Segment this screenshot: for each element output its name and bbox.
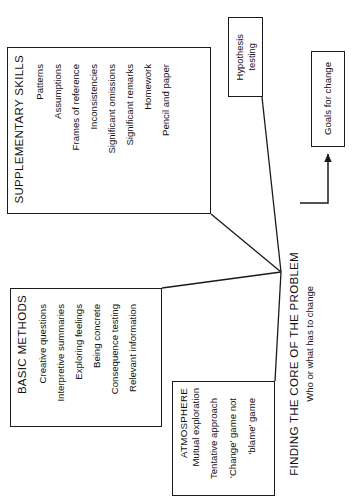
supplementary-skills-item: Significant omissions xyxy=(107,64,117,154)
box-basic-methods: BASIC METHODS Creative questions Interpr… xyxy=(10,288,162,427)
supplementary-skills-item: Pencil and paper xyxy=(161,64,171,136)
atmosphere-item: 'blame' game xyxy=(247,398,257,454)
box-supplementary-skills: SUPPLEMENTARY SKILLS Patterns Assumption… xyxy=(7,47,211,214)
diagram-canvas: SUPPLEMENTARY SKILLS Patterns Assumption… xyxy=(0,0,361,498)
atmosphere-heading: ATMOSPHERE xyxy=(179,388,189,458)
diagram-subtitle: Who or what has to change xyxy=(305,286,315,402)
basic-methods-item: Exploring feelings xyxy=(74,304,84,380)
connector-atmosphere-to-core xyxy=(275,272,281,381)
goals-for-change-label: Goals for change xyxy=(323,62,333,135)
supplementary-skills-item: Inconsistencies xyxy=(89,64,99,130)
supplementary-skills-item: Frames of reference xyxy=(71,64,81,150)
supplementary-skills-item: Assumptions xyxy=(53,64,63,119)
basic-methods-item: Interpretive summaries xyxy=(56,304,66,402)
box-hypothesis-testing: Hypothesis testing xyxy=(228,17,263,97)
atmosphere-item: 'Change' game not xyxy=(228,398,238,478)
supplementary-skills-item: Patterns xyxy=(35,64,45,100)
atmosphere-item: Tentative approach xyxy=(209,398,219,479)
atmosphere-content: ATMOSPHERE Mutual exploration Tentative … xyxy=(173,382,274,495)
basic-methods-content: BASIC METHODS Creative questions Interpr… xyxy=(11,289,161,426)
basic-methods-item: Relevant information xyxy=(128,304,138,392)
basic-methods-item: Creative questions xyxy=(38,304,48,383)
connector-basic-to-core xyxy=(162,272,281,288)
basic-methods-item: Consequence testing xyxy=(110,304,120,394)
basic-methods-heading: BASIC METHODS xyxy=(17,295,29,394)
diagram-title: FINDING THE CORE OF THE PROBLEM xyxy=(288,252,300,476)
basic-methods-item: Being concrete xyxy=(92,304,102,368)
supplementary-skills-heading: SUPPLEMENTARY SKILLS xyxy=(14,55,26,204)
supplementary-skills-item: Homework xyxy=(143,64,153,110)
connector-core-to-goals xyxy=(300,154,328,203)
supplementary-skills-item: Significant remarks xyxy=(125,64,135,146)
atmosphere-item: Mutual exploration xyxy=(191,388,201,466)
connector-hypothesis-to-core xyxy=(262,97,281,272)
supplementary-skills-content: SUPPLEMENTARY SKILLS Patterns Assumption… xyxy=(8,48,210,213)
box-goals-for-change: Goals for change xyxy=(311,51,345,147)
connector-supplementary-to-core xyxy=(211,214,281,272)
box-atmosphere: ATMOSPHERE Mutual exploration Tentative … xyxy=(172,381,275,496)
goals-for-change-content: Goals for change xyxy=(312,52,344,146)
hypothesis-testing-line2: testing xyxy=(247,43,256,71)
hypothesis-testing-line1: Hypothesis xyxy=(235,34,244,80)
hypothesis-testing-content: Hypothesis testing xyxy=(229,18,262,96)
